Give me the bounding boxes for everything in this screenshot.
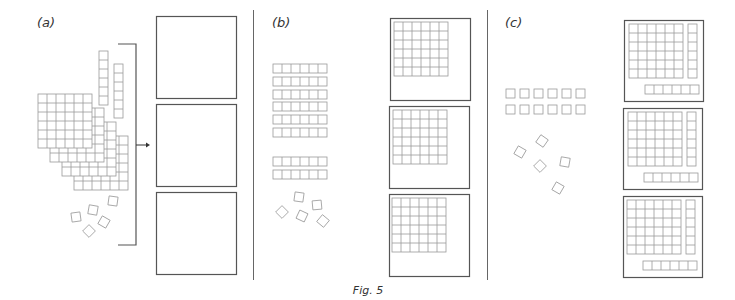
box-with-grid-and-rods: [624, 109, 703, 190]
unit-rows: [506, 89, 585, 114]
loose-units: [514, 135, 570, 194]
box-with-grid: [391, 19, 471, 101]
figure-5-diagram: (a): [0, 0, 735, 300]
panel-c-label: (c): [505, 15, 522, 30]
panel-b: (b): [272, 15, 471, 277]
box-with-grid: [390, 107, 470, 189]
arrow-right-icon: [136, 143, 150, 148]
rods-group: [273, 64, 327, 179]
rod: [114, 64, 123, 118]
panel-a-label: (a): [37, 15, 55, 30]
empty-box: [157, 105, 237, 187]
figure-caption: Fig. 5: [353, 284, 383, 297]
loose-units: [71, 196, 118, 237]
box-with-grid: [390, 195, 470, 277]
panel-b-label: (b): [272, 15, 290, 30]
empty-box: [157, 17, 237, 99]
panel-b-boxes: [390, 19, 471, 277]
box-with-grid-and-rods: [625, 21, 704, 102]
loose-units: [276, 192, 330, 227]
empty-box: [157, 193, 237, 275]
rod: [99, 51, 108, 105]
panel-c: (c): [505, 15, 704, 278]
box-with-grid-and-rods: [624, 197, 703, 278]
panel-c-boxes: [624, 21, 704, 278]
panel-a-boxes: [157, 17, 237, 275]
panel-a: (a): [37, 15, 237, 275]
